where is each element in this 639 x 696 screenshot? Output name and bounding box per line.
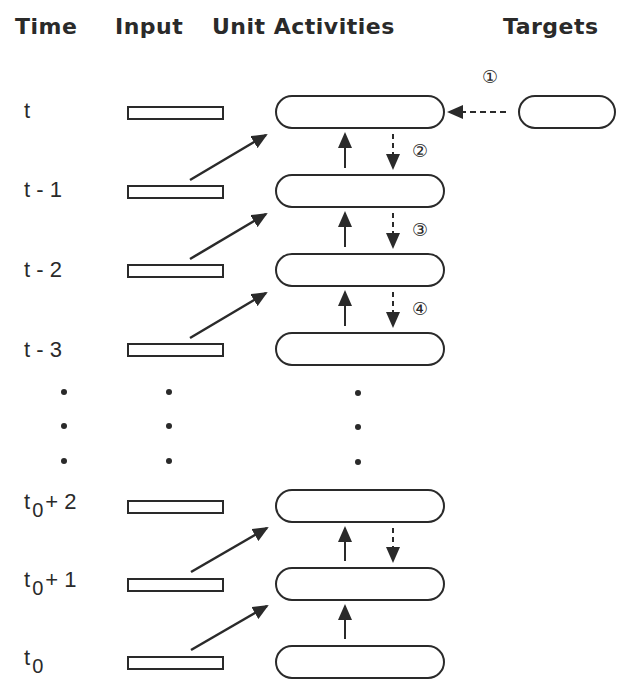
input-arrow-icons (190, 135, 267, 650)
arrows-layer (0, 0, 639, 696)
input-arrow-t-minus-2 (190, 214, 266, 259)
input-arrow-t0-plus-1 (191, 528, 267, 572)
input-arrow-t-minus-1 (190, 135, 266, 180)
input-arrow-t0 (191, 606, 267, 650)
input-arrow-t-minus-3 (190, 293, 266, 338)
